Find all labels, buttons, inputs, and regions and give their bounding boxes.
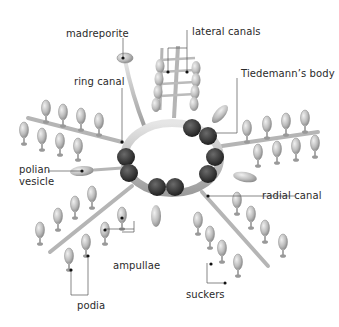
arm-upper-left	[20, 100, 123, 162]
label-ring-canal: ring canal	[74, 76, 125, 88]
label-madreporite: madreporite	[66, 28, 129, 40]
arm-upper	[152, 46, 201, 118]
label-polian-vesicle-line2: vesicle	[19, 176, 54, 188]
label-polian-vesicle-line1: polian	[19, 164, 50, 176]
arm-upper-right	[222, 110, 320, 168]
arm-lower-right	[194, 192, 288, 278]
label-ampullae: ampullae	[113, 260, 160, 272]
label-suckers: suckers	[186, 289, 225, 301]
diagram-canvas: madreporite lateral canals ring canal Ti…	[0, 0, 339, 327]
label-tiedemanns-body: Tiedemann’s body	[241, 68, 335, 80]
label-radial-canal: radial canal	[262, 190, 322, 202]
water-vascular-illustration	[0, 0, 339, 327]
label-podia: podia	[77, 300, 105, 312]
label-lateral-canals: lateral canals	[192, 26, 261, 38]
madreporite-structure	[117, 53, 145, 128]
